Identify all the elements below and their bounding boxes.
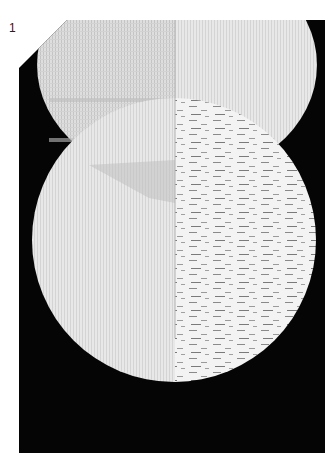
page-number: 1 bbox=[9, 21, 16, 35]
tapestry-photo bbox=[19, 20, 325, 453]
lower-woven-circle bbox=[32, 98, 316, 382]
